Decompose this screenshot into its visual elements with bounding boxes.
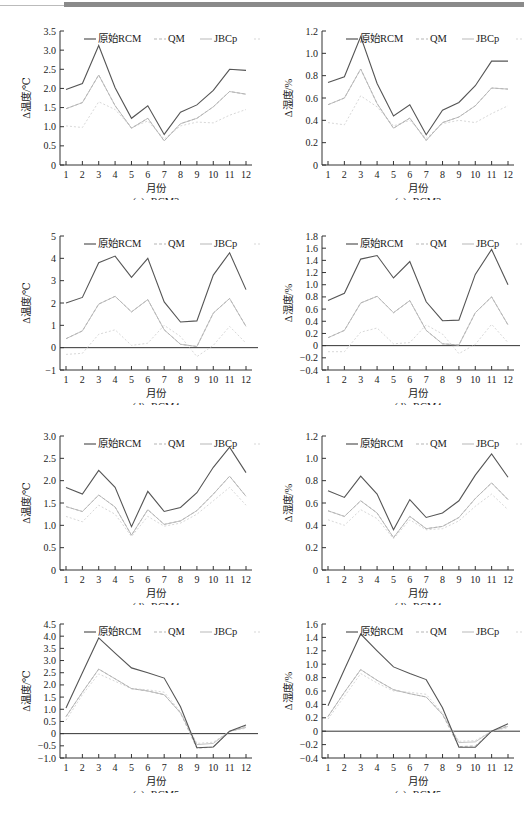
- page-header-rule: [0, 0, 524, 8]
- x-tick-label: 11: [225, 169, 235, 180]
- x-tick-label: 1: [64, 374, 69, 385]
- x-tick-label: 12: [503, 574, 513, 585]
- x-tick-label: 3: [358, 169, 363, 180]
- y-tick-label: 0: [51, 728, 56, 739]
- x-tick-label: 8: [178, 574, 183, 585]
- legend-label: QM: [430, 626, 448, 637]
- series-line-JBCp: [66, 75, 246, 141]
- y-tick-label: 1.5: [44, 498, 57, 509]
- y-tick-label: 1.2: [306, 645, 319, 656]
- x-tick-label: 12: [503, 762, 513, 773]
- x-axis-label: 月份: [408, 388, 429, 399]
- legend-label: 原始RCM: [98, 237, 142, 249]
- y-tick-label: 0.5: [44, 716, 57, 727]
- series-line-原始RCM: [66, 447, 246, 527]
- legend-label: JBCp: [476, 626, 499, 637]
- x-tick-label: 5: [391, 762, 396, 773]
- figure-caption: (d)₂ RCM4: [394, 401, 442, 405]
- chart-panel-d4: 00.20.40.60.81.01.2123456789101112原始RCMQ…: [262, 420, 524, 609]
- x-tick-label: 6: [407, 374, 412, 385]
- x-tick-label: 2: [342, 374, 347, 385]
- y-tick-label: 0: [51, 565, 56, 576]
- y-tick-label: 2.5: [44, 64, 57, 75]
- x-tick-label: 3: [358, 374, 363, 385]
- y-tick-label: −1.0: [38, 753, 56, 764]
- figure-caption: (e)₁ RCM5: [133, 789, 180, 793]
- x-tick-label: 6: [145, 574, 150, 585]
- y-tick-label: 1: [51, 320, 56, 331]
- series-line-原始RCM: [328, 634, 508, 747]
- x-tick-label: 7: [424, 374, 429, 385]
- x-tick-label: 5: [129, 762, 134, 773]
- line-chart-d2: −0.4−0.200.20.40.60.81.01.21.41.61.81234…: [262, 220, 524, 405]
- y-tick-label: 1.2: [306, 267, 319, 278]
- line-chart-c3: 00.51.01.52.02.53.03.5123456789101112原始R…: [0, 15, 262, 200]
- y-tick-label: 1.0: [44, 704, 57, 715]
- y-tick-label: 1.5: [44, 692, 57, 703]
- y-axis-label: Δ温度/℃: [20, 670, 32, 712]
- y-tick-label: 0.6: [306, 304, 319, 315]
- x-tick-label: 10: [470, 574, 480, 585]
- y-axis-label: Δ湿度/%: [282, 484, 294, 523]
- x-tick-label: 6: [407, 169, 412, 180]
- series-line-QM: [66, 669, 246, 748]
- x-tick-label: 9: [194, 574, 199, 585]
- series-line-原始RCM: [66, 253, 246, 322]
- y-tick-label: 1.0: [44, 121, 57, 132]
- x-axis-label: 月份: [146, 388, 167, 399]
- y-tick-label: 1.2: [306, 26, 319, 37]
- legend-label: 原始RCM: [360, 625, 404, 637]
- y-tick-label: 0: [313, 565, 318, 576]
- y-tick-label: 0.4: [306, 115, 319, 126]
- x-tick-label: 4: [113, 169, 118, 180]
- x-tick-label: 12: [241, 374, 251, 385]
- y-tick-label: 1.2: [306, 431, 319, 442]
- y-tick-label: 0.2: [306, 712, 319, 723]
- x-tick-label: 6: [145, 762, 150, 773]
- chart-panel-d3: 00.51.01.52.02.53.0123456789101112原始RCMQ…: [0, 420, 262, 609]
- legend-label: JBCp: [476, 33, 499, 44]
- series-line-JBCt: [66, 487, 246, 536]
- x-tick-label: 3: [358, 762, 363, 773]
- y-tick-label: 1.6: [306, 619, 319, 630]
- x-tick-label: 9: [456, 762, 461, 773]
- x-tick-label: 7: [162, 169, 167, 180]
- x-tick-label: 8: [440, 374, 445, 385]
- y-tick-label: 0.2: [306, 328, 319, 339]
- x-tick-label: 5: [391, 574, 396, 585]
- line-chart-d1: −1012345123456789101112原始RCMQMJBCpJBCtΔ温…: [0, 220, 262, 405]
- y-tick-label: 0: [51, 342, 56, 353]
- x-tick-label: 1: [326, 169, 331, 180]
- y-tick-label: 0: [313, 160, 318, 171]
- x-tick-label: 4: [113, 762, 118, 773]
- x-tick-label: 5: [129, 374, 134, 385]
- series-line-JBCt: [66, 325, 246, 356]
- legend-label: 原始RCM: [98, 625, 142, 637]
- line-chart-c4: 00.20.40.60.81.01.2123456789101112原始RCMQ…: [262, 15, 524, 200]
- x-axis-label: 月份: [408, 776, 429, 787]
- x-tick-label: 4: [113, 374, 118, 385]
- y-tick-label: 0.2: [306, 137, 319, 148]
- line-chart-e2: −0.4−0.200.20.40.60.81.01.21.41.61234567…: [262, 608, 524, 793]
- y-tick-label: 1.6: [306, 243, 319, 254]
- y-tick-label: 0.8: [306, 672, 319, 683]
- x-tick-label: 4: [113, 574, 118, 585]
- y-tick-label: −1: [45, 365, 56, 376]
- y-tick-label: 3.0: [44, 655, 57, 666]
- x-tick-label: 10: [470, 169, 480, 180]
- x-tick-label: 11: [487, 169, 497, 180]
- x-tick-label: 3: [358, 574, 363, 585]
- x-tick-label: 9: [194, 169, 199, 180]
- y-tick-label: 1.4: [306, 632, 319, 643]
- figure-caption: (c)₄ RCM3: [395, 196, 442, 200]
- x-tick-label: 2: [342, 762, 347, 773]
- y-tick-label: 0.6: [306, 93, 319, 104]
- legend-label: QM: [430, 438, 448, 449]
- header-thin-rule: [0, 5, 64, 6]
- y-tick-label: −0.5: [38, 740, 56, 751]
- legend-label: QM: [430, 33, 448, 44]
- line-chart-d4: 00.20.40.60.81.01.2123456789101112原始RCMQ…: [262, 420, 524, 605]
- x-tick-label: 7: [162, 574, 167, 585]
- x-tick-label: 4: [375, 374, 380, 385]
- x-tick-label: 8: [178, 762, 183, 773]
